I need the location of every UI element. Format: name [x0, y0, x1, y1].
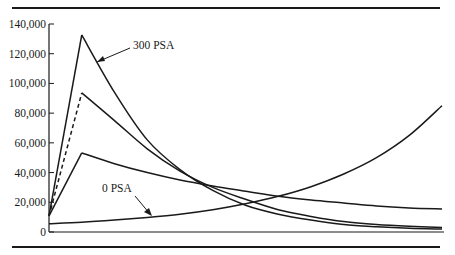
y-tick-label: 140,000: [9, 18, 47, 31]
chart-plot: 020,00040,00060,00080,000100,000120,0001…: [0, 0, 455, 255]
y-tick-label: 20,000: [14, 196, 46, 209]
arrow-head-icon: [144, 208, 152, 216]
series-300-psa-ramp: [49, 35, 82, 216]
y-tick-label: 100,000: [9, 77, 47, 90]
annotation-0-psa: 0 PSA: [102, 182, 132, 194]
series-lower-psa-ramp: [49, 153, 82, 216]
y-tick-label: 40,000: [14, 167, 46, 180]
arrow-head-icon: [97, 56, 105, 62]
y-tick-label: 80,000: [14, 107, 46, 120]
y-tick-label: 60,000: [14, 137, 46, 150]
annotation-300-psa: 300 PSA: [133, 39, 175, 51]
y-tick-label: 0: [40, 226, 46, 238]
y-tick-label: 120,000: [9, 48, 47, 61]
series-intermediate-psa-ramp: [49, 93, 82, 216]
